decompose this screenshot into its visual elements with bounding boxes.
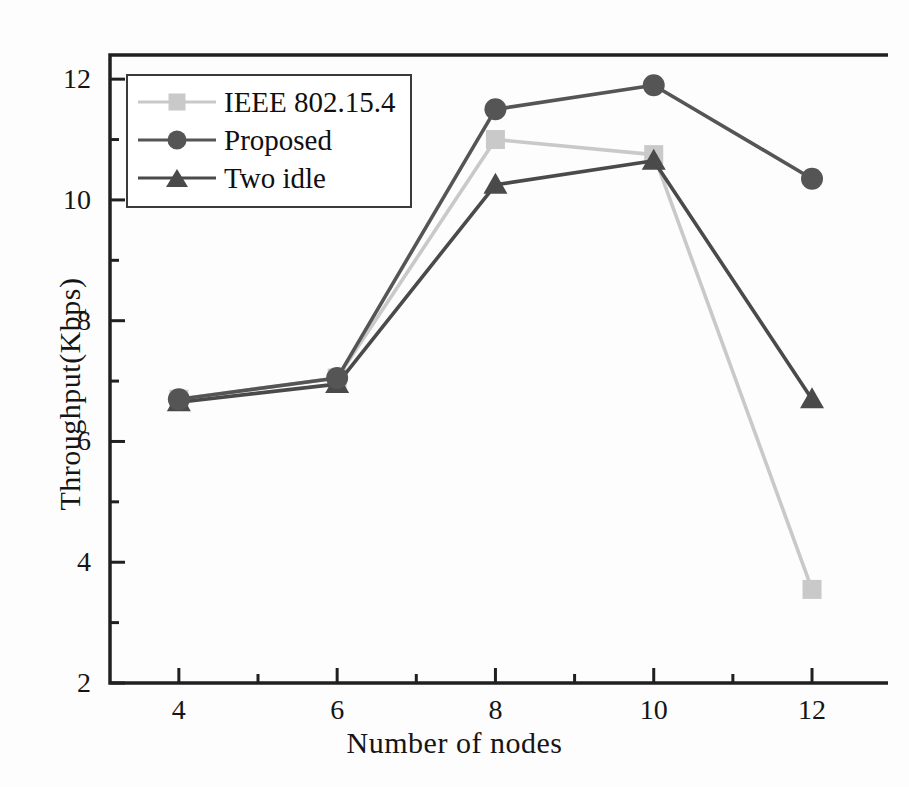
legend-marker-triangle-icon — [166, 169, 188, 187]
throughput-line-chart: Throughput(Kbps) Number of nodes 2468101… — [0, 0, 909, 787]
legend-label: Two idle — [224, 164, 326, 193]
data-point-marker — [801, 168, 823, 190]
legend-item: Two idle — [138, 159, 396, 197]
legend-item: Proposed — [138, 121, 396, 159]
legend-swatch — [138, 125, 216, 155]
legend-marker-square-icon — [169, 94, 186, 111]
data-point-marker — [643, 74, 665, 96]
data-point-marker — [486, 130, 505, 149]
data-point-marker — [484, 98, 506, 120]
data-point-marker — [168, 388, 190, 410]
legend-marker-circle-icon — [168, 131, 187, 150]
legend-label: IEEE 802.15.4 — [224, 88, 396, 117]
legend-label: Proposed — [224, 126, 332, 155]
legend-swatch — [138, 87, 216, 117]
data-point-marker — [326, 367, 348, 389]
data-point-marker — [803, 580, 822, 599]
data-point-marker — [800, 387, 824, 408]
legend-item: IEEE 802.15.4 — [138, 83, 396, 121]
legend-swatch — [138, 163, 216, 193]
chart-legend: IEEE 802.15.4ProposedTwo idle — [126, 74, 412, 208]
